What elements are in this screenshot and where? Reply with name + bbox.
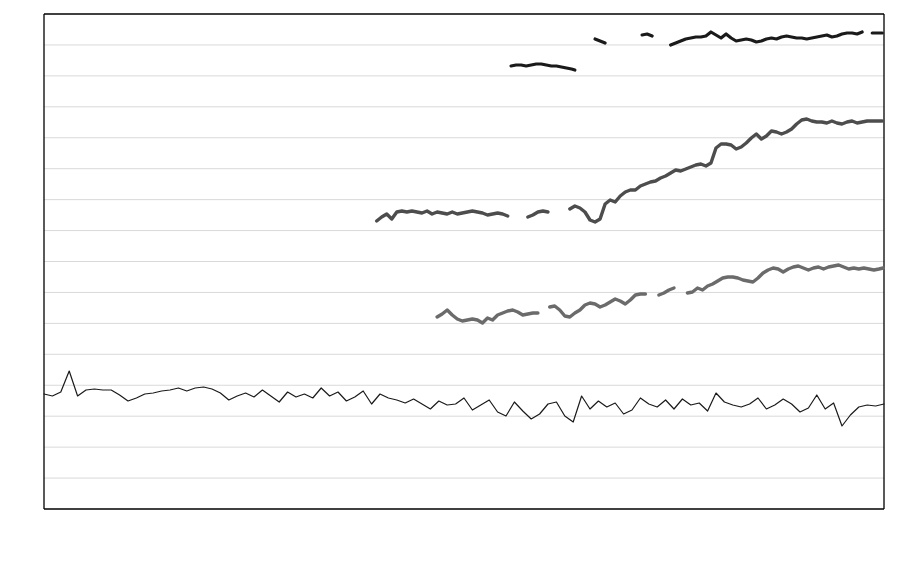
series-segment [642,34,652,36]
chart-page [0,0,916,563]
sea-level-chart [0,0,916,563]
